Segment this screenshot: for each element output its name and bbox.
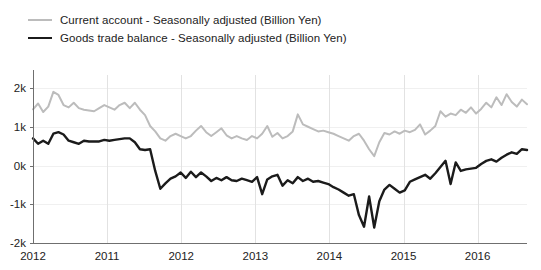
axes-group (30, 70, 528, 244)
x-axis-tick-label: 2016 (465, 250, 491, 262)
y-axis-tick-label: -2k (10, 237, 26, 249)
x-axis-labels: 2012201120122013201420152016 (20, 250, 490, 262)
y-axis-labels: 2k1k0k-1k-2k (10, 82, 26, 249)
y-axis-tick-label: -1k (10, 198, 26, 210)
x-axis-tick-label: 2015 (391, 250, 417, 262)
x-axis-tick-label: 2013 (243, 250, 269, 262)
chart-container: Current account - Seasonally adjusted (B… (0, 0, 541, 270)
plot-area: 2k1k0k-1k-2k 201220112012201320142015201… (0, 0, 541, 270)
y-axis-tick-label: 0k (14, 160, 26, 172)
x-axis-tick-label: 2014 (317, 250, 343, 262)
x-axis-tick-label: 2012 (20, 250, 46, 262)
x-axis-tick-label: 2011 (95, 250, 120, 262)
plot-svg: 2k1k0k-1k-2k 201220112012201320142015201… (0, 0, 541, 270)
vertical-gridlines (108, 75, 479, 243)
x-axis-tick-label: 2012 (168, 250, 194, 262)
y-axis-tick-label: 1k (14, 121, 26, 133)
y-axis-tick-label: 2k (14, 82, 26, 94)
